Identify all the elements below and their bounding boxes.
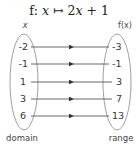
domain-value: -1 — [19, 58, 28, 69]
domain-value: 3 — [20, 93, 26, 104]
domain-label: domain — [6, 133, 38, 143]
domain-value: 1 — [20, 76, 26, 87]
mapping-row: 3 7 — [20, 93, 122, 104]
range-value: -3 — [112, 41, 121, 52]
range-value: 3 — [116, 76, 122, 87]
range-value: 7 — [116, 93, 122, 104]
range-value: -1 — [112, 58, 121, 69]
mapping-row: 1 3 — [20, 76, 122, 87]
function-title: f: x ↦ 2x + 1 — [29, 3, 109, 18]
domain-value: 6 — [20, 110, 26, 121]
range-value: 13 — [112, 110, 124, 121]
mapping-row: -1 -1 — [19, 58, 122, 69]
range-header: f(x) — [118, 21, 132, 30]
domain-value: -2 — [19, 41, 28, 52]
domain-header: x — [22, 21, 28, 30]
range-label: range — [109, 133, 134, 143]
mapping-diagram: f: x ↦ 2x + 1 x f(x) -2 -3 -1 -1 1 3 3 7… — [0, 0, 139, 158]
